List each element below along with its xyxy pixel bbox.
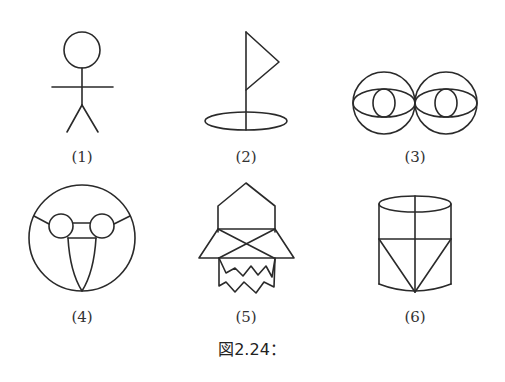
figure-6-cylinder [379, 196, 451, 292]
figure-2-flag [205, 32, 287, 130]
figure-4-goggle-face [29, 185, 135, 291]
figure-1-stick-person [52, 32, 113, 132]
figure-caption: 図2.24： [218, 340, 286, 359]
figure-4-label: (4) [71, 308, 92, 326]
figure-2-label: (2) [235, 148, 256, 166]
figure-5-label: (5) [235, 308, 256, 326]
figure-3-label: (3) [404, 148, 425, 166]
figure-3-double-eyes [353, 72, 477, 134]
figure-5-house-shape [199, 183, 294, 293]
figure-1-label: (1) [71, 148, 92, 166]
figure-canvas: (1) (2) (3) (4) [0, 0, 505, 382]
figure-6-label: (6) [404, 308, 425, 326]
